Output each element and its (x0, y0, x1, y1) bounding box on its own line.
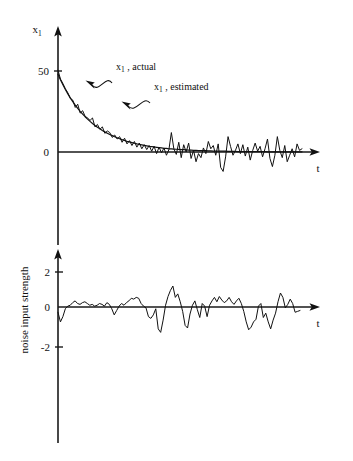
figure-svg: x1 50 0 t x1 , actual x1 , estimated (0, 0, 353, 461)
noise-input-trace (58, 286, 300, 332)
noise-ytick-label-0: 0 (45, 301, 51, 313)
noise-y-axis (54, 249, 62, 443)
state-ytick-label-50: 50 (38, 65, 50, 77)
noise-ytick-label-neg2: -2 (41, 341, 50, 353)
state-y-axis-label: x1 (32, 23, 42, 38)
state-ytick-label-0: 0 (44, 146, 50, 158)
figure-container: x1 50 0 t x1 , actual x1 , estimated (0, 0, 353, 461)
annotation-actual: x1 , actual (86, 61, 157, 89)
noise-x-axis-label: t (316, 317, 319, 329)
noise-input-plot: 2 0 -2 noise input strength t (18, 249, 320, 443)
noise-x-axis (58, 303, 320, 311)
noise-ytick-label-2: 2 (45, 266, 51, 278)
annotation-actual-label: x1 , actual (116, 61, 156, 74)
state-estimate-plot: x1 50 0 t x1 , actual x1 , estimated (32, 23, 320, 245)
state-y-axis (54, 26, 62, 245)
state-x-axis-label: t (316, 162, 319, 174)
annotation-estimated: x1 , estimated (122, 81, 209, 110)
annotation-estimated-label: x1 , estimated (154, 81, 209, 94)
noise-y-axis-label: noise input strength (18, 266, 30, 353)
annotation-estimated-arrowhead (122, 102, 131, 110)
annotation-actual-arrowhead (86, 81, 95, 89)
